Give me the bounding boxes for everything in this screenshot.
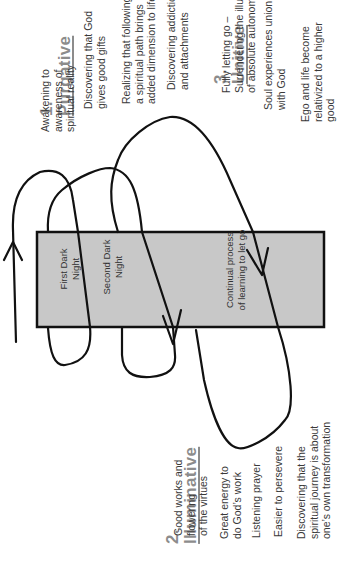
unitive-item-3: Ego and life become relativized to a hig… [299,22,337,122]
purgative-item-4: Discovering addictions and attachments [165,0,190,90]
purgative-item-2: Discovering that God gives good gifts [82,11,107,109]
loop-2-top [111,117,253,232]
illuminative-item-3: Listening prayer [250,463,263,538]
purgative-item-1: Awakening to awareness of spiritual real… [39,65,77,132]
second-dark-night-label: Second Dark Night [101,227,125,307]
illuminative-item-5: Discovering that the spiritual journey i… [295,422,333,539]
illuminative-item-2: Great energy to do God’s work [218,466,243,539]
unitive-item-2: Soul experiences union with God [262,1,287,110]
illuminative-item-4: Easier to persevere [272,446,285,537]
loop-1-top [48,168,142,232]
illuminative-item-1: Good works and flowering of the virtues [172,460,210,536]
unitive-item-1: Fully letting go – Surrendering the illu… [220,0,258,93]
continual-process-label: Continual process of learning to let go [224,220,248,320]
first-dark-night-label: First Dark Night [58,234,82,304]
purgative-item-3: Realizing that following a spiritual pat… [120,0,158,104]
